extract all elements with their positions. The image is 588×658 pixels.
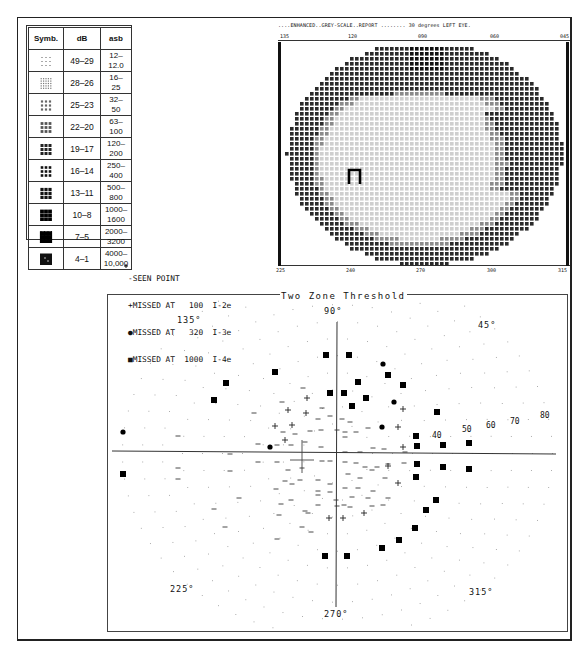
ecc-80: 80 xyxy=(540,411,550,420)
ecc-40: 40 xyxy=(432,431,442,440)
label-45: 45° xyxy=(478,320,496,330)
label-270: 270° xyxy=(324,609,348,619)
plot-title: Two Zone Threshold xyxy=(280,291,407,301)
ecc-70: 70 xyxy=(510,417,520,426)
ecc-50: 50 xyxy=(462,425,472,434)
label-90: 90° xyxy=(324,306,342,316)
label-315: 315° xyxy=(469,587,493,597)
polar-plot xyxy=(0,0,588,658)
label-225: 225° xyxy=(170,584,194,594)
label-135: 135° xyxy=(177,315,201,325)
ecc-60: 60 xyxy=(486,421,496,430)
